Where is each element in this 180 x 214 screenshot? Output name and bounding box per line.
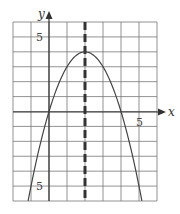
x-tick-5: 5 — [136, 116, 143, 129]
x-axis-arrow-icon — [158, 109, 166, 116]
parabola-graph: x y 5 5 5 — [0, 0, 180, 214]
y-axis-arrow-icon — [46, 11, 53, 19]
y-tick-neg5: 5 — [36, 180, 43, 193]
y-tick-5: 5 — [36, 31, 43, 44]
y-axis-label: y — [37, 7, 45, 21]
x-axis-label: x — [168, 105, 175, 119]
